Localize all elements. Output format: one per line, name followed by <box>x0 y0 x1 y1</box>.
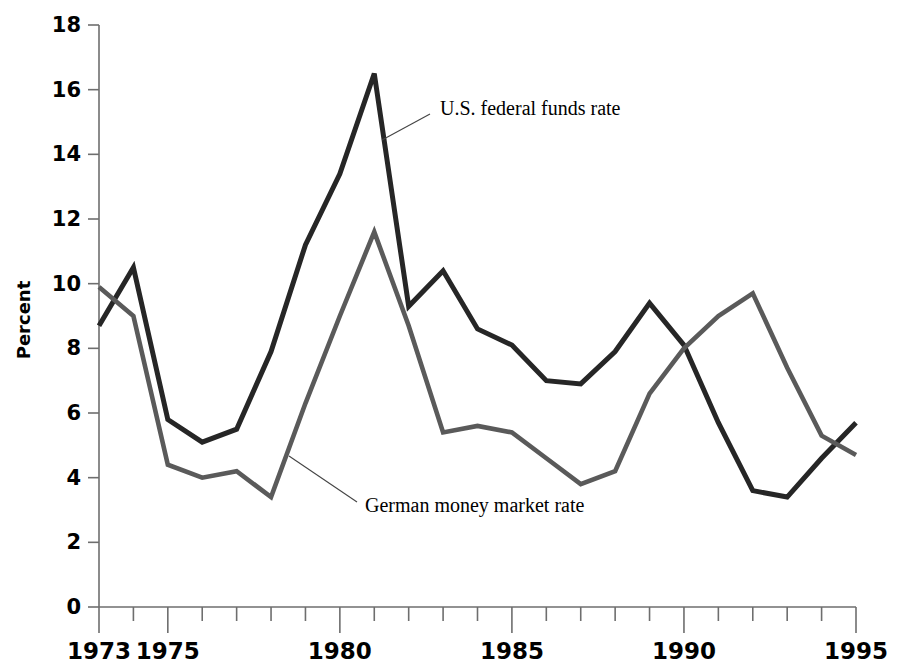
y-axis-tick-label: 0 <box>66 595 81 619</box>
y-axis-tick-label: 12 <box>52 207 81 231</box>
y-axis-tick-label: 4 <box>66 466 81 490</box>
y-axis-tick-label: 18 <box>52 13 81 37</box>
y-axis-tick-label: 16 <box>52 78 81 102</box>
line-chart-svg: 024681012141618 197319751980198519901995… <box>0 0 911 665</box>
annotation-leader-line-1 <box>289 456 357 502</box>
y-axis-tick-label: 14 <box>52 142 81 166</box>
x-axis-tick-label: 1990 <box>652 638 716 664</box>
y-axis-tick-label: 8 <box>66 336 81 360</box>
x-axis-tick-label: 1973 <box>67 638 131 664</box>
annotation-label-1: German money market rate <box>365 494 584 517</box>
annotation-label-0: U.S. federal funds rate <box>440 97 621 119</box>
series-annotations: U.S. federal funds rateGerman money mark… <box>289 97 621 517</box>
x-axis: 197319751980198519901995 <box>67 607 888 664</box>
series-line-1 <box>99 232 856 497</box>
x-axis-tick-label: 1980 <box>308 638 372 664</box>
x-axis-tick-label: 1975 <box>136 638 200 664</box>
y-axis-tick-label: 10 <box>52 272 81 296</box>
annotation-leader-line-0 <box>382 114 430 140</box>
y-axis-tick-label: 2 <box>66 530 81 554</box>
chart-container: 024681012141618 197319751980198519901995… <box>0 0 911 665</box>
x-axis-tick-label: 1995 <box>824 638 888 664</box>
x-axis-tick-label: 1985 <box>480 638 544 664</box>
series-line-0 <box>99 74 856 498</box>
y-axis: 024681012141618 <box>52 13 99 619</box>
y-axis-title: Percent <box>13 280 34 359</box>
y-axis-tick-label: 6 <box>66 401 81 425</box>
series-lines <box>99 74 856 498</box>
